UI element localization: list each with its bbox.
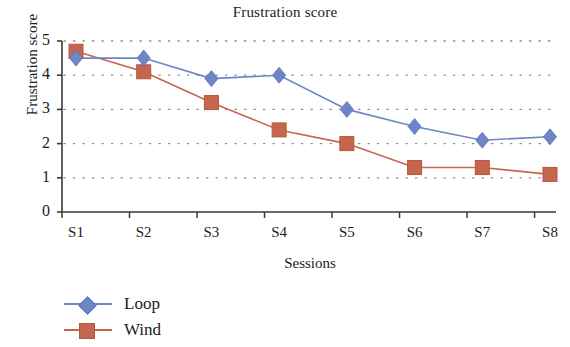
y-tick-0: 0 xyxy=(30,202,50,220)
legend-label-wind: Wind xyxy=(114,320,161,340)
data-point-loop-s8 xyxy=(543,129,556,145)
data-point-loop-s4 xyxy=(273,67,286,83)
square-marker-icon xyxy=(79,323,95,339)
data-point-loop-s6 xyxy=(408,119,421,135)
x-tick-s7: S7 xyxy=(462,224,502,241)
data-point-wind-s3 xyxy=(204,96,218,110)
x-tick-s8: S8 xyxy=(530,224,570,241)
y-tick-5: 5 xyxy=(30,31,50,49)
y-tick-4: 4 xyxy=(30,65,50,83)
x-axis-title: Sessions xyxy=(60,255,560,272)
x-tick-s1: S1 xyxy=(56,224,96,241)
data-point-loop-s5 xyxy=(340,101,353,117)
data-point-loop-s2 xyxy=(137,50,150,66)
data-point-wind-s5 xyxy=(340,137,354,151)
x-tick-s4: S4 xyxy=(259,224,299,241)
y-tick-1: 1 xyxy=(30,168,50,186)
x-tick-s6: S6 xyxy=(395,224,435,241)
y-tick-3: 3 xyxy=(30,99,50,117)
x-tick-s5: S5 xyxy=(327,224,367,241)
x-tick-s3: S3 xyxy=(191,224,231,241)
legend-label-loop: Loop xyxy=(114,294,160,314)
frustration-score-chart: Frustration score Frustration score 0123… xyxy=(0,0,570,347)
legend-key-loop xyxy=(62,294,114,314)
data-point-wind-s8 xyxy=(543,167,557,181)
y-tick-2: 2 xyxy=(30,134,50,152)
chart-legend: Loop Wind xyxy=(62,291,262,343)
data-point-wind-s7 xyxy=(475,161,489,175)
legend-item-loop: Loop xyxy=(62,291,262,317)
series-layer xyxy=(69,44,557,181)
gridlines xyxy=(64,41,556,178)
data-point-loop-s7 xyxy=(476,132,489,148)
x-tick-s2: S2 xyxy=(124,224,164,241)
data-point-wind-s6 xyxy=(408,161,422,175)
data-point-wind-s2 xyxy=(137,65,151,79)
data-point-wind-s4 xyxy=(272,123,286,137)
data-point-loop-s3 xyxy=(205,71,218,87)
legend-item-wind: Wind xyxy=(62,317,262,343)
diamond-marker-icon xyxy=(78,296,96,314)
legend-key-wind xyxy=(62,320,114,340)
